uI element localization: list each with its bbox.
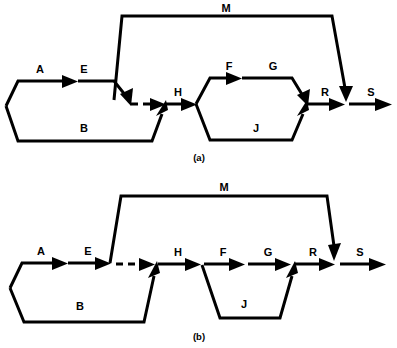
edge-label-b-a: B (80, 122, 88, 134)
edge-label-g-b: G (264, 246, 273, 258)
edge-label-r-a: R (321, 86, 329, 98)
edge-g-a (242, 78, 310, 106)
edge-label-a-a: A (36, 63, 44, 75)
arrowhead-r-b (319, 258, 335, 271)
arrowhead-h-b (185, 258, 201, 271)
arrowhead-e-b (95, 257, 111, 270)
edge-e-b (68, 257, 111, 270)
edge-g-b (248, 258, 291, 271)
edge-f-b (204, 258, 245, 271)
edge-a-b (10, 257, 68, 288)
panel-a: M A E B H (6, 2, 392, 163)
arrowhead-a-a (62, 75, 78, 88)
arrowhead-h-a (181, 98, 197, 111)
edge-label-f-a: F (226, 60, 233, 72)
edge-label-g-a: G (269, 60, 278, 72)
arrowhead-f-b (229, 258, 245, 271)
edge-m-a (114, 16, 353, 102)
panel-caption-b: (b) (193, 331, 205, 342)
arrowhead-g-b (275, 258, 291, 271)
edge-b-b (10, 261, 160, 322)
arrowhead-s-a (375, 98, 392, 111)
arrowhead-j-a (297, 100, 309, 116)
edge-r-b (294, 258, 335, 271)
arrowhead-link-b (139, 258, 155, 271)
edge-label-h-b: H (174, 246, 182, 258)
panel-b: M A E B H (10, 181, 386, 342)
edge-e-a (78, 81, 133, 106)
edge-label-h-a: H (174, 86, 182, 98)
panel-caption-a: (a) (193, 152, 205, 163)
edge-j-b (202, 261, 298, 318)
edge-label-r-b: R (309, 246, 317, 258)
network-diagram-figure: M A E B H (0, 0, 397, 348)
edge-label-e-b: E (84, 245, 91, 257)
edge-label-e-a: E (80, 63, 87, 75)
edge-label-b-b: B (76, 300, 84, 312)
edge-s-a (349, 98, 392, 111)
arrowhead-s-b (369, 258, 386, 271)
arrowhead-m-b (328, 243, 341, 261)
edge-j-a (196, 100, 309, 140)
diagram-canvas: M A E B H (0, 0, 397, 348)
edge-b-a (6, 100, 168, 141)
arrowhead-a-b (52, 257, 68, 270)
edge-h-a (166, 98, 197, 111)
arrowhead-r-a (329, 98, 345, 111)
edge-label-s-a: S (367, 86, 374, 98)
edge-label-m-a: M (221, 2, 230, 14)
edge-e-to-h-link-b (116, 258, 155, 271)
edge-f-a (196, 72, 242, 104)
arrowhead-m-a (339, 86, 353, 102)
edge-label-j-b: J (241, 298, 247, 310)
edge-h-b (158, 258, 201, 271)
edge-label-f-b: F (220, 246, 227, 258)
edge-a-a (6, 75, 78, 106)
edge-label-a-b: A (37, 245, 45, 257)
edge-label-j-a: J (253, 122, 259, 134)
edge-s-b (340, 258, 386, 271)
edge-label-s-b: S (356, 246, 363, 258)
edge-label-m-b: M (219, 181, 228, 193)
edge-r-a (307, 98, 345, 111)
arrowhead-f-a (226, 72, 242, 85)
